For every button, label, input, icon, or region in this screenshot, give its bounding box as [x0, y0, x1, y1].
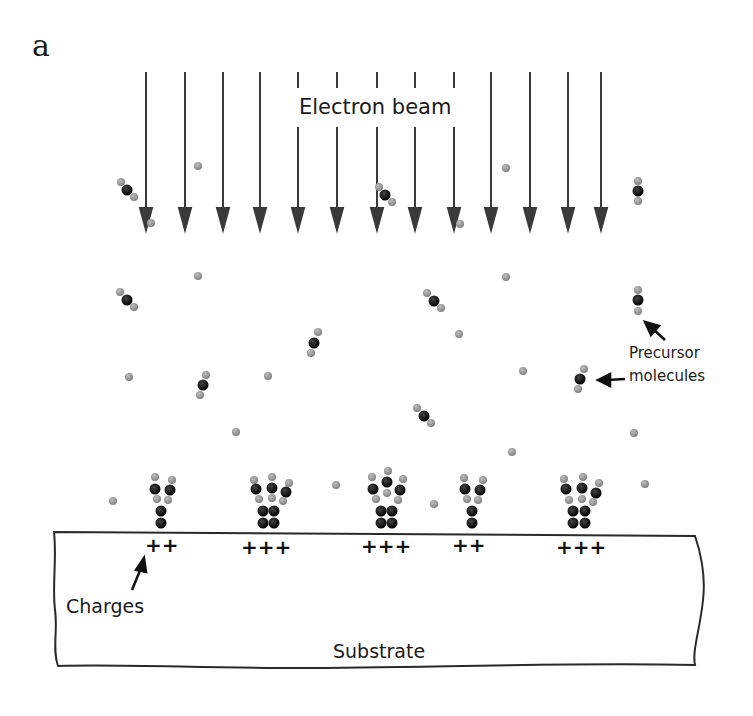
atom-icon — [641, 480, 649, 488]
charge-group: +++ — [361, 534, 411, 558]
atom-icon — [508, 448, 516, 456]
atom-icon — [194, 272, 202, 280]
precursor-pointer-arrow-icon — [598, 374, 625, 386]
molecule-icon — [633, 177, 644, 205]
atom-icon — [232, 428, 240, 436]
molecule-icon — [307, 328, 322, 357]
atom-icon — [194, 162, 202, 170]
precursor-pointer-arrow-icon — [645, 322, 665, 340]
beam-arrow-icon — [254, 72, 266, 230]
charge-group: ++ — [452, 533, 486, 557]
deposit-2 — [250, 473, 293, 529]
atom-icon — [456, 220, 464, 228]
molecule-icon — [413, 404, 435, 427]
molecule-icon — [633, 286, 644, 315]
panel-label: a — [32, 28, 50, 63]
atom-icon — [502, 164, 510, 172]
atom-icon — [264, 372, 272, 380]
molecule-icon — [574, 365, 588, 393]
charge-group: ++ — [145, 533, 179, 557]
atom-icon — [455, 330, 463, 338]
molecule-icon — [375, 183, 396, 206]
molecule-icon — [117, 178, 138, 201]
charge-group: +++ — [241, 535, 291, 559]
atom-icon — [125, 373, 133, 381]
beam-arrow-icon — [179, 72, 191, 230]
charges-label: Charges — [66, 595, 144, 617]
electron-beam-label: Electron beam — [297, 95, 453, 119]
beam-arrow-icon — [562, 72, 574, 230]
deposit-1 — [150, 473, 177, 529]
molecule-icon — [196, 371, 210, 399]
beam-arrow-icon — [217, 72, 229, 230]
atom-icon — [147, 219, 155, 227]
atom-icon — [332, 481, 340, 489]
beam-arrow-icon — [140, 72, 152, 230]
molecule-icon — [423, 289, 445, 312]
charge-group: +++ — [556, 535, 606, 559]
deposit-3 — [368, 467, 408, 529]
beam-arrow-icon — [595, 72, 607, 230]
atom-icon — [630, 429, 638, 437]
atom-icon — [430, 500, 438, 508]
atom-icon — [109, 497, 117, 505]
beam-arrow-icon — [524, 72, 536, 230]
substrate-label: Substrate — [333, 640, 425, 662]
precursor-label-line2: molecules — [629, 365, 705, 388]
precursor-label-line1: Precursor — [629, 342, 705, 365]
molecule-icon — [116, 288, 138, 311]
beam-arrow-icon — [485, 72, 497, 230]
deposit-4 — [460, 474, 488, 529]
precursor-molecules-label: Precursor molecules — [629, 342, 705, 388]
atom-icon — [519, 367, 527, 375]
deposit-5 — [560, 473, 603, 529]
atom-icon — [502, 273, 510, 281]
